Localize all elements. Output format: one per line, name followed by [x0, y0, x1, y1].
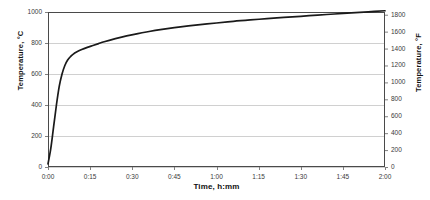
x-axis-tick-label: 0:30	[117, 173, 147, 180]
y-axis-left-tick-label: 200	[16, 132, 42, 139]
data-series-line	[48, 11, 385, 164]
x-axis-tick-label: 0:00	[33, 173, 63, 180]
plot-frame	[49, 13, 385, 167]
x-axis-tick-label: 1:00	[202, 173, 232, 180]
gridlines-group	[48, 13, 385, 168]
x-axis-tick-label: 1:15	[244, 173, 274, 180]
x-axis-tick-label: 2:00	[370, 173, 400, 180]
data-series-group	[48, 11, 385, 164]
axis-frame-group	[49, 13, 385, 167]
y-axis-left-title: Temperature, °C	[16, 1, 25, 121]
x-axis-tick-label: 1:45	[328, 173, 358, 180]
y-axis-left-tick-label: 0	[16, 163, 42, 170]
chart-container: 02004006008001000 0200400600800100012001…	[0, 0, 430, 200]
tick-marks-group	[45, 13, 388, 171]
chart-plot-area	[0, 0, 430, 200]
x-axis-tick-label: 1:30	[286, 173, 316, 180]
x-axis-tick-label: 0:45	[159, 173, 189, 180]
x-axis-tick-label: 0:15	[75, 173, 105, 180]
x-axis-title: Time, h:mm	[48, 182, 385, 191]
y-axis-right-tick-label: 200	[391, 146, 417, 153]
y-axis-right-tick-label: 400	[391, 129, 417, 136]
y-axis-right-tick-label: 0	[391, 163, 417, 170]
y-axis-right-title: Temperature, °F	[414, 3, 423, 123]
